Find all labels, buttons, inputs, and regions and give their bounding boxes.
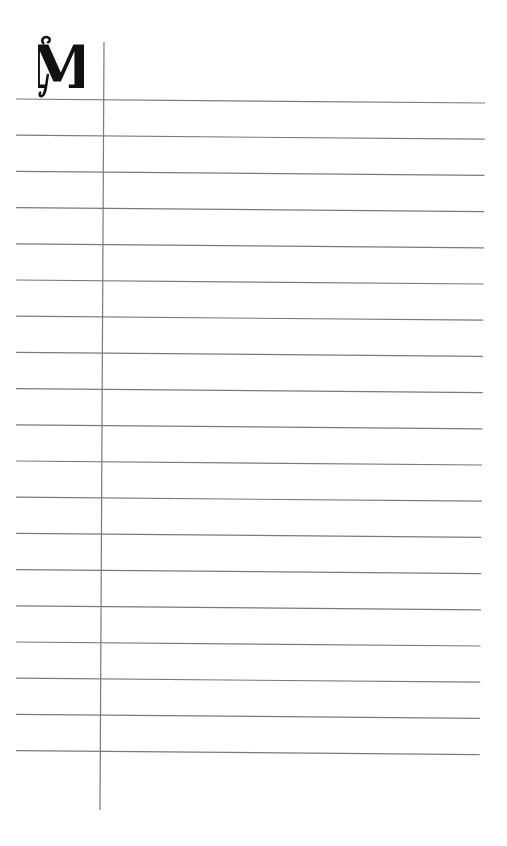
ruled-line [16,678,480,682]
ruled-line [16,751,480,755]
ruled-line [16,570,481,574]
ruled-line [16,352,483,356]
ruled-line [16,171,484,175]
ruled-line [16,389,483,393]
ruled-line [16,642,481,646]
ruled-line [16,497,482,501]
ruled-line [16,244,484,248]
ruled-line [16,135,485,139]
ruled-line [16,99,485,103]
ruled-line [16,606,481,610]
lined-paper-sheet: M [0,0,507,846]
ruled-line [16,280,484,284]
ruled-line [16,461,482,465]
ruled-line [16,208,484,212]
ruled-line [16,425,482,429]
ruled-line [16,316,483,320]
ruled-line [16,714,480,718]
ruled-line [16,533,481,537]
